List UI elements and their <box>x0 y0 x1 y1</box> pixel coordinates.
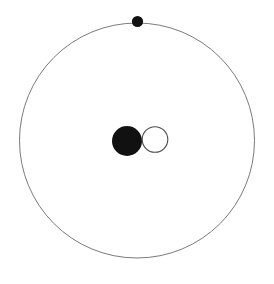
orbit-diagram-svg <box>0 0 274 284</box>
orbit-diagram-canvas <box>0 0 274 284</box>
primary-body-disk <box>112 126 142 156</box>
orbiting-body-dot <box>132 16 143 27</box>
secondary-body-open-circle <box>142 127 168 153</box>
